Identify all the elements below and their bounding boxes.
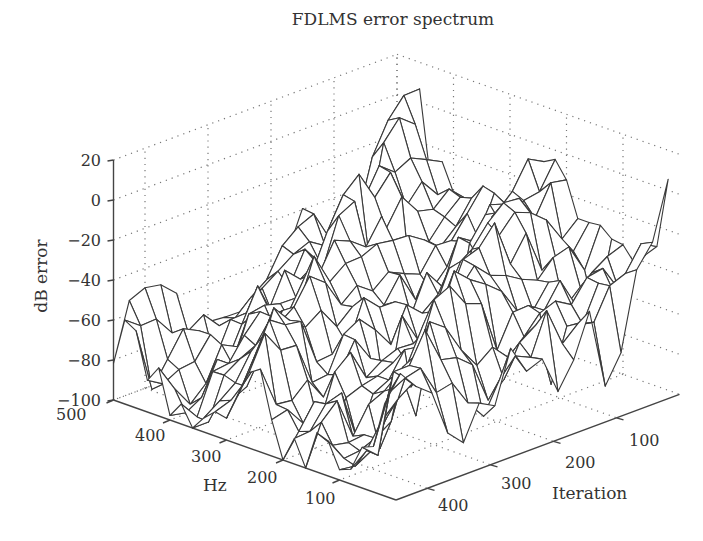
z-tick: 20: [81, 151, 101, 170]
hz-axis-label: Hz: [203, 475, 227, 495]
mesh-cell: [515, 356, 542, 371]
surface-mesh: [114, 89, 669, 470]
chart-title: FDLMS error spectrum: [292, 9, 494, 29]
iteration-tick: 400: [438, 496, 469, 515]
iteration-axis-label: Iteration: [552, 483, 627, 503]
hz-tick: 400: [135, 426, 166, 445]
iteration-tick: 300: [501, 474, 532, 493]
iteration-tick: 100: [629, 431, 660, 450]
iteration-tick: 200: [565, 453, 596, 472]
z-axis-label: dB error: [31, 238, 51, 312]
hz-tick: 200: [247, 468, 278, 487]
hz-tick: 500: [56, 405, 87, 424]
z-tick: 0: [91, 191, 101, 210]
hz-tick: 100: [305, 489, 336, 508]
z-tick: −20: [67, 231, 101, 250]
mesh-cell: [641, 179, 668, 246]
surface-chart: FDLMS error spectrum 20 0 −20 −40 −60 −8…: [0, 0, 703, 541]
z-tick: −40: [67, 271, 101, 290]
z-tick-labels: 20 0 −20 −40 −60 −80 −100: [57, 151, 101, 410]
hz-tick: 300: [191, 447, 222, 466]
z-tick: −60: [67, 311, 101, 330]
z-tick: −80: [67, 351, 101, 370]
